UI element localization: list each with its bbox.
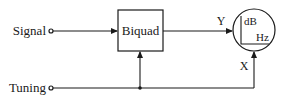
biquad-block: Biquad (118, 10, 163, 51)
spectrum-display: dB Hz (233, 9, 275, 51)
tuning-label: Tuning (9, 80, 47, 95)
hz-axis-label: Hz (256, 31, 269, 43)
y-port-label: Y (217, 14, 226, 28)
signal-terminal (49, 29, 53, 33)
tuning-terminal (49, 86, 53, 90)
x-port-label: X (240, 59, 249, 73)
db-axis-label: dB (244, 15, 257, 27)
biquad-block-diagram: Signal Biquad Y dB Hz Tuning X (0, 0, 291, 99)
biquad-label: Biquad (122, 23, 160, 38)
signal-label: Signal (13, 23, 47, 38)
